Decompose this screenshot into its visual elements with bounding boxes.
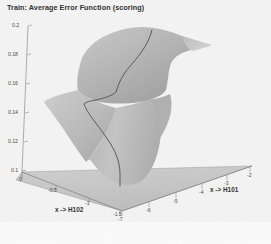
error-surface-layer [0,0,271,244]
surface-plot-figure: Train: Average Error Function (scoring) [0,0,271,244]
page-title: Train: Average Error Function (scoring) [7,3,144,12]
